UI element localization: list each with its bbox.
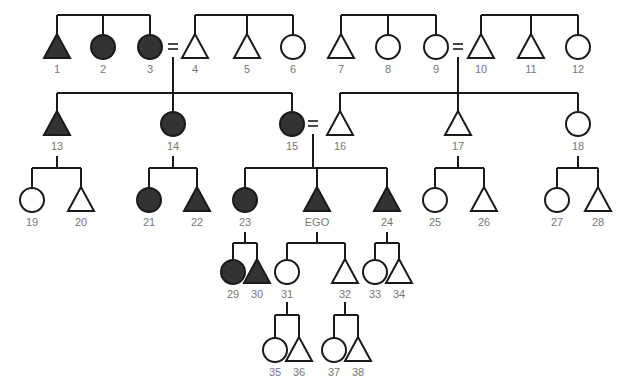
marriage-equals-sign bbox=[453, 44, 463, 49]
individual-23: 23 bbox=[233, 188, 257, 228]
individual-32: 32 bbox=[332, 259, 358, 300]
individual-label: 24 bbox=[381, 216, 393, 228]
individual-label: 35 bbox=[269, 366, 281, 378]
marriage-signs bbox=[168, 44, 463, 126]
individual-10: 10 bbox=[468, 34, 494, 75]
individual-36: 36 bbox=[286, 337, 312, 378]
individual-label: 37 bbox=[328, 366, 340, 378]
individual-25: 25 bbox=[423, 188, 447, 228]
open-circle-icon bbox=[566, 112, 590, 136]
individual-label: 8 bbox=[385, 63, 391, 75]
individual-6: 6 bbox=[281, 35, 305, 75]
descent-lines bbox=[32, 15, 598, 338]
open-triangle-icon bbox=[327, 111, 353, 135]
individual-label: 19 bbox=[26, 216, 38, 228]
individual-label: 36 bbox=[293, 366, 305, 378]
individual-7: 7 bbox=[328, 34, 354, 75]
individual-label: 18 bbox=[572, 140, 584, 152]
individual-27: 27 bbox=[545, 188, 569, 228]
kinship-diagram: 1234567891011121314151617181920212223EGO… bbox=[0, 0, 624, 390]
open-triangle-icon bbox=[68, 187, 94, 211]
individual-1: 1 bbox=[44, 34, 70, 75]
individual-28: 28 bbox=[585, 187, 611, 228]
individual-31: 31 bbox=[275, 260, 299, 300]
individual-label: 13 bbox=[51, 140, 63, 152]
filled-triangle-icon bbox=[44, 34, 70, 58]
open-circle-icon bbox=[275, 260, 299, 284]
filled-triangle-icon bbox=[304, 187, 330, 211]
individual-EGO: EGO bbox=[304, 187, 330, 228]
individual-15: 15 bbox=[280, 112, 304, 152]
individual-18: 18 bbox=[566, 112, 590, 152]
individual-26: 26 bbox=[471, 187, 497, 228]
individual-9: 9 bbox=[424, 35, 448, 75]
marriage-equals-sign bbox=[168, 44, 178, 49]
individual-16: 16 bbox=[327, 111, 353, 152]
individual-11: 11 bbox=[518, 34, 544, 75]
individual-19: 19 bbox=[20, 188, 44, 228]
individual-22: 22 bbox=[184, 187, 210, 228]
individual-29: 29 bbox=[221, 260, 245, 300]
open-circle-icon bbox=[423, 188, 447, 212]
individual-label: 16 bbox=[334, 140, 346, 152]
individual-8: 8 bbox=[376, 35, 400, 75]
filled-circle-icon bbox=[91, 35, 115, 59]
open-circle-icon bbox=[263, 338, 287, 362]
individual-34: 34 bbox=[386, 259, 412, 300]
open-triangle-icon bbox=[332, 259, 358, 283]
individual-17: 17 bbox=[445, 111, 471, 152]
individuals: 1234567891011121314151617181920212223EGO… bbox=[20, 34, 611, 378]
individual-label: 25 bbox=[429, 216, 441, 228]
individual-20: 20 bbox=[68, 187, 94, 228]
individual-label: 20 bbox=[75, 216, 87, 228]
open-circle-icon bbox=[376, 35, 400, 59]
individual-label: 22 bbox=[191, 216, 203, 228]
open-triangle-icon bbox=[386, 259, 412, 283]
individual-label: 17 bbox=[452, 140, 464, 152]
open-circle-icon bbox=[545, 188, 569, 212]
individual-label: 10 bbox=[475, 63, 487, 75]
individual-38: 38 bbox=[345, 337, 371, 378]
open-circle-icon bbox=[322, 338, 346, 362]
filled-circle-icon bbox=[233, 188, 257, 212]
marriage-equals-sign bbox=[308, 121, 318, 126]
individual-label: 26 bbox=[478, 216, 490, 228]
individual-37: 37 bbox=[322, 338, 346, 378]
filled-circle-icon bbox=[161, 112, 185, 136]
individual-label: 30 bbox=[251, 288, 263, 300]
individual-4: 4 bbox=[182, 34, 208, 75]
individual-12: 12 bbox=[566, 35, 590, 75]
individual-label: 32 bbox=[339, 288, 351, 300]
individual-label: 11 bbox=[525, 63, 536, 75]
open-triangle-icon bbox=[234, 34, 260, 58]
individual-label: 14 bbox=[167, 140, 179, 152]
individual-label: 2 bbox=[100, 63, 106, 75]
open-triangle-icon bbox=[182, 34, 208, 58]
open-circle-icon bbox=[566, 35, 590, 59]
open-circle-icon bbox=[20, 188, 44, 212]
individual-label: 12 bbox=[572, 63, 584, 75]
individual-label: 21 bbox=[143, 216, 155, 228]
filled-circle-icon bbox=[137, 188, 161, 212]
open-triangle-icon bbox=[468, 34, 494, 58]
individual-label: 9 bbox=[433, 63, 439, 75]
individual-5: 5 bbox=[234, 34, 260, 75]
individual-label: 29 bbox=[227, 288, 239, 300]
open-circle-icon bbox=[281, 35, 305, 59]
individual-13: 13 bbox=[44, 111, 70, 152]
individual-2: 2 bbox=[91, 35, 115, 75]
individual-label: 38 bbox=[352, 366, 364, 378]
open-triangle-icon bbox=[471, 187, 497, 211]
individual-14: 14 bbox=[161, 112, 185, 152]
individual-label: 1 bbox=[54, 63, 60, 75]
individual-label: 15 bbox=[286, 140, 298, 152]
open-triangle-icon bbox=[345, 337, 371, 361]
open-circle-icon bbox=[363, 260, 387, 284]
individual-label: 23 bbox=[239, 216, 251, 228]
open-triangle-icon bbox=[585, 187, 611, 211]
individual-label: 33 bbox=[369, 288, 381, 300]
filled-triangle-icon bbox=[374, 187, 400, 211]
individual-label: 28 bbox=[592, 216, 604, 228]
filled-triangle-icon bbox=[184, 187, 210, 211]
filled-circle-icon bbox=[280, 112, 304, 136]
